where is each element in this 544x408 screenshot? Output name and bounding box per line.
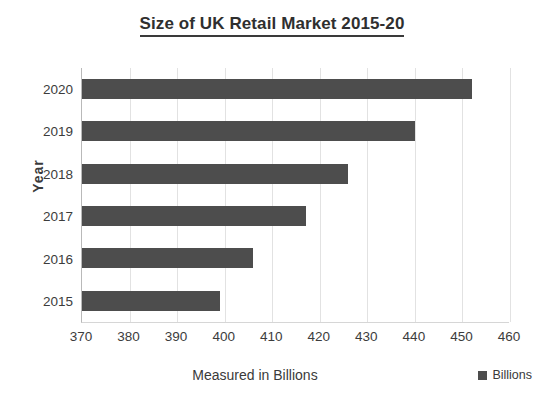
bar[interactable] <box>82 206 306 226</box>
plot-area <box>81 68 509 323</box>
bar-row <box>82 195 509 237</box>
x-axis-tick-label: 410 <box>260 329 283 344</box>
x-axis-tick-label: 430 <box>355 329 378 344</box>
bar-row <box>82 237 509 279</box>
x-axis-title: Measured in Billions <box>110 367 400 383</box>
bar[interactable] <box>82 79 472 99</box>
bar-series <box>82 68 509 322</box>
y-axis-tick-label: 2016 <box>30 238 77 281</box>
x-axis-tick-label: 400 <box>212 329 235 344</box>
bar-row <box>82 280 509 322</box>
x-axis-tick-label: 420 <box>308 329 331 344</box>
chart-title: Size of UK Retail Market 2015-20 <box>0 14 544 34</box>
gridline <box>510 68 511 322</box>
chart-legend: Billions <box>478 368 532 382</box>
bar[interactable] <box>82 291 220 311</box>
bar[interactable] <box>82 121 415 141</box>
x-axis-tick-label: 370 <box>70 329 93 344</box>
x-axis-tick-label: 460 <box>498 329 521 344</box>
bar-row <box>82 68 509 110</box>
y-axis-tick-label: 2018 <box>30 153 77 196</box>
bar-row <box>82 153 509 195</box>
bar[interactable] <box>82 248 253 268</box>
x-axis-tick-label: 440 <box>403 329 426 344</box>
bar[interactable] <box>82 164 348 184</box>
y-axis-tick-labels: 202020192018201720162015 <box>30 68 77 323</box>
x-axis-tick-label: 390 <box>165 329 188 344</box>
y-axis-tick-label: 2019 <box>30 111 77 154</box>
chart-title-text: Size of UK Retail Market 2015-20 <box>140 14 405 37</box>
y-axis-tick-label: 2017 <box>30 196 77 239</box>
bar-row <box>82 110 509 152</box>
x-axis-tick-labels: 370380390400410420430440450460 <box>81 329 509 349</box>
x-axis-tick-label: 450 <box>450 329 473 344</box>
x-axis-tick-label: 380 <box>117 329 140 344</box>
legend-label: Billions <box>492 368 532 382</box>
y-axis-tick-label: 2015 <box>30 281 77 324</box>
bar-chart: Size of UK Retail Market 2015-20 Year 20… <box>0 0 544 408</box>
y-axis-tick-label: 2020 <box>30 68 77 111</box>
legend-swatch-icon <box>478 371 487 380</box>
